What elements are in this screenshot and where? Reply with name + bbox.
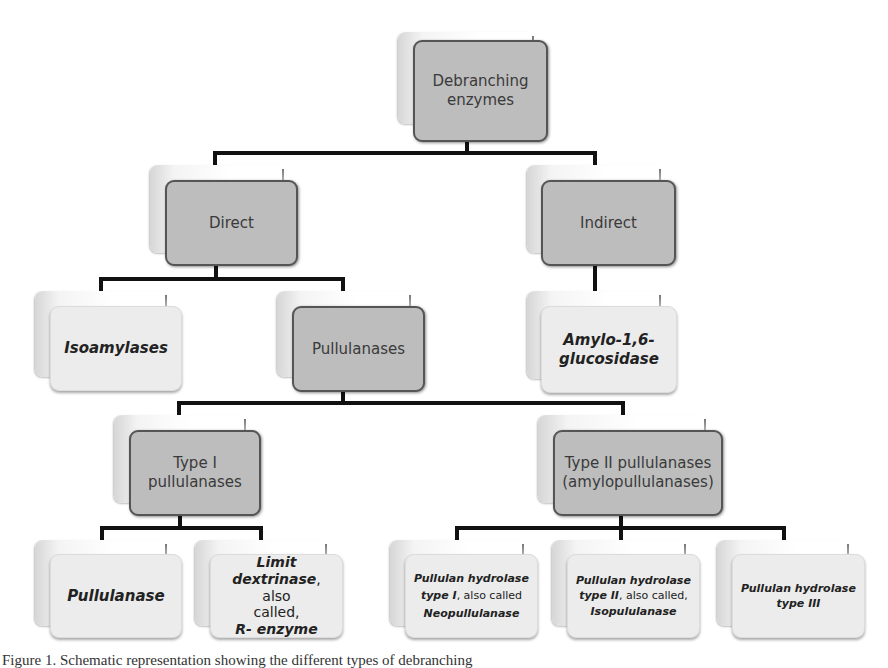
connector-type2-drop bbox=[621, 401, 625, 415]
connector-limit-drop bbox=[259, 526, 263, 540]
connector-pullulanases-drop bbox=[341, 277, 345, 291]
connector-pullulanases-bar bbox=[177, 401, 625, 405]
node-ph1-line2-rest: , also called bbox=[457, 589, 522, 602]
node-limit-line1: Limit bbox=[257, 554, 297, 570]
node-ph1-line2-bold: type I bbox=[421, 589, 457, 602]
node-ph2-line1: Pullulan hydrolase bbox=[576, 574, 691, 587]
connector-ph3-drop bbox=[782, 526, 786, 540]
node-ph2-line3: Isopululanase bbox=[591, 605, 677, 618]
node-type2-line2: (amylopullulanases) bbox=[562, 473, 714, 491]
node-limit-line3: called, bbox=[253, 604, 299, 620]
connector-isoamylases-drop bbox=[99, 277, 103, 291]
node-ph1-line1: Pullulan hydrolase bbox=[414, 572, 529, 585]
node-root-line1: Debranching bbox=[432, 72, 528, 90]
node-direct-label: Direct bbox=[209, 214, 254, 233]
connector-type1-bar bbox=[100, 526, 263, 530]
node-ph1-line3: Neopullulanase bbox=[424, 607, 520, 620]
node-indirect-label: Indirect bbox=[580, 214, 637, 233]
node-amylo-line2: glucosidase bbox=[559, 350, 659, 368]
connector-ph1-drop bbox=[455, 526, 459, 540]
node-limit-line4: R- enzyme bbox=[235, 621, 317, 637]
connector-type2-bar bbox=[455, 526, 786, 530]
node-root-line2: enzymes bbox=[447, 91, 514, 109]
node-amylo-line1: Amylo-1,6- bbox=[563, 331, 655, 349]
connector-type1-drop bbox=[177, 401, 181, 415]
node-type1-line2: pullulanases bbox=[148, 473, 242, 491]
connector-root-bar bbox=[213, 151, 597, 155]
node-limit-line2-bold: dextrinase bbox=[232, 571, 316, 587]
node-pullulanases-label: Pullulanases bbox=[312, 340, 405, 359]
connector-indirect-stem bbox=[593, 265, 597, 291]
connector-direct-bar bbox=[99, 277, 345, 281]
node-ph2-line2-rest: , also called, bbox=[619, 589, 688, 602]
figure-caption: Figure 1. Schematic representation showi… bbox=[2, 652, 472, 668]
connector-direct-drop bbox=[213, 151, 217, 165]
node-isoamylases-label: Isoamylases bbox=[64, 339, 168, 358]
connector-pullulanase-drop bbox=[100, 526, 104, 540]
node-pullulanase-label: Pullulanase bbox=[67, 587, 164, 606]
node-ph3-line2: type III bbox=[777, 597, 821, 610]
node-ph3-line1: Pullulan hydrolase bbox=[741, 582, 856, 595]
node-ph2-line2-bold: type II bbox=[579, 589, 619, 602]
connector-indirect-drop bbox=[593, 151, 597, 165]
node-type2-line1: Type II pullulanases bbox=[565, 454, 712, 472]
node-type1-line1: Type I bbox=[173, 454, 217, 472]
